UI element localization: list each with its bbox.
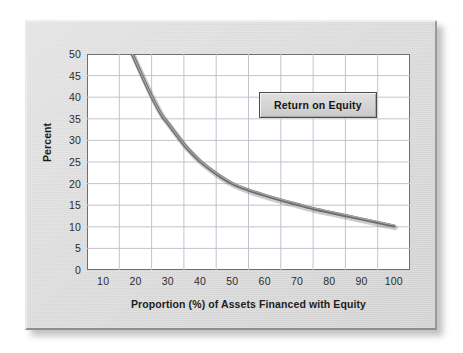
x-axis-title: Proportion (%) of Assets Financed with E… xyxy=(87,298,410,310)
y-tick-label-20: 20 xyxy=(69,178,81,190)
y-tick-label-25: 25 xyxy=(69,156,81,168)
series-return-on-equity xyxy=(87,54,410,270)
x-tick-label-80: 80 xyxy=(323,275,335,287)
x-tick-label-40: 40 xyxy=(194,275,206,287)
y-tick-label-35: 35 xyxy=(69,113,81,125)
legend-return-on-equity: Return on Equity xyxy=(259,92,377,118)
x-tick-label-70: 70 xyxy=(291,275,303,287)
x-tick-label-50: 50 xyxy=(226,275,238,287)
y-tick-label-50: 50 xyxy=(69,48,81,60)
x-tick-label-10: 10 xyxy=(97,275,109,287)
y-tick-label-45: 45 xyxy=(69,70,81,82)
x-tick-label-20: 20 xyxy=(129,275,141,287)
y-tick-label-5: 5 xyxy=(75,242,81,254)
y-tick-label-15: 15 xyxy=(69,199,81,211)
x-tick-label-60: 60 xyxy=(259,275,271,287)
plot-wrapper: 05101520253035404550 1020304050607080901… xyxy=(87,54,410,270)
x-tick-label-90: 90 xyxy=(356,275,368,287)
figure-panel: Percent 05101520253035404550 10203040506… xyxy=(25,20,437,330)
x-tick-label-30: 30 xyxy=(162,275,174,287)
y-tick-label-0: 0 xyxy=(75,264,81,276)
y-axis-title: Percent xyxy=(41,123,53,162)
y-tick-label-40: 40 xyxy=(69,91,81,103)
x-tick-label-100: 100 xyxy=(385,275,403,287)
y-tick-label-30: 30 xyxy=(69,134,81,146)
y-tick-label-10: 10 xyxy=(69,221,81,233)
